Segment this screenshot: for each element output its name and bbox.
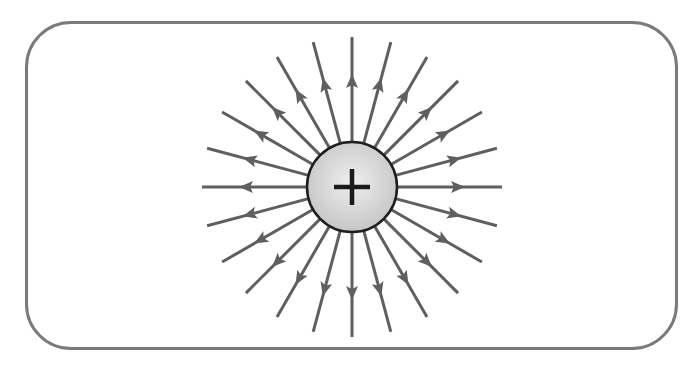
plus-vertical-bar <box>350 169 355 205</box>
field-line <box>246 219 320 293</box>
field-line <box>384 219 458 293</box>
field-line <box>384 81 458 155</box>
electric-field-diagram: + Electric field lines of a positive poi… <box>0 0 688 366</box>
point-charge: + <box>0 0 397 232</box>
field-line <box>246 81 320 155</box>
